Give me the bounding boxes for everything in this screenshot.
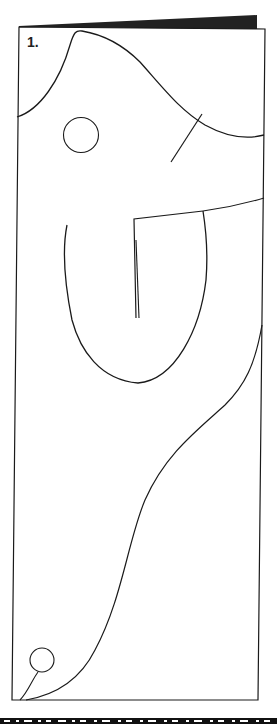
tail-curve bbox=[26, 325, 262, 700]
figure-number-label: 1. bbox=[27, 34, 39, 50]
panel-frame bbox=[12, 27, 265, 700]
eye-circle bbox=[64, 118, 99, 153]
arm-bracket bbox=[134, 198, 264, 318]
head-curve bbox=[17, 31, 264, 137]
filmstrip-border bbox=[0, 718, 277, 724]
drawing-canvas bbox=[0, 0, 277, 725]
small-circle bbox=[30, 648, 54, 672]
diagonal-stroke bbox=[171, 114, 202, 162]
line-drawing-figure: 1. bbox=[0, 0, 277, 725]
small-circle-stem bbox=[20, 672, 38, 700]
inner-vertical-stroke bbox=[136, 240, 139, 318]
